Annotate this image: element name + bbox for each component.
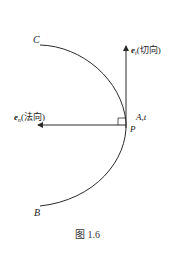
point-c-label: C: [33, 35, 40, 45]
normal-vector-desc: (法向): [21, 112, 45, 122]
figure-diagram: C B P A,t et(切向) en(法向) 图 1.6: [0, 0, 175, 260]
right-angle-marker: [118, 118, 126, 125]
curve-diagram-svg: [0, 0, 175, 260]
point-b-label: B: [34, 208, 40, 218]
tangent-vector-label: et(切向): [131, 45, 161, 58]
normal-vector-label: en(法向): [14, 112, 45, 125]
tangent-vector-desc: (切向): [137, 45, 161, 55]
point-a-t-label: A,t: [136, 112, 146, 122]
point-p-label: P: [130, 124, 136, 134]
figure-caption: 图 1.6: [0, 226, 175, 241]
